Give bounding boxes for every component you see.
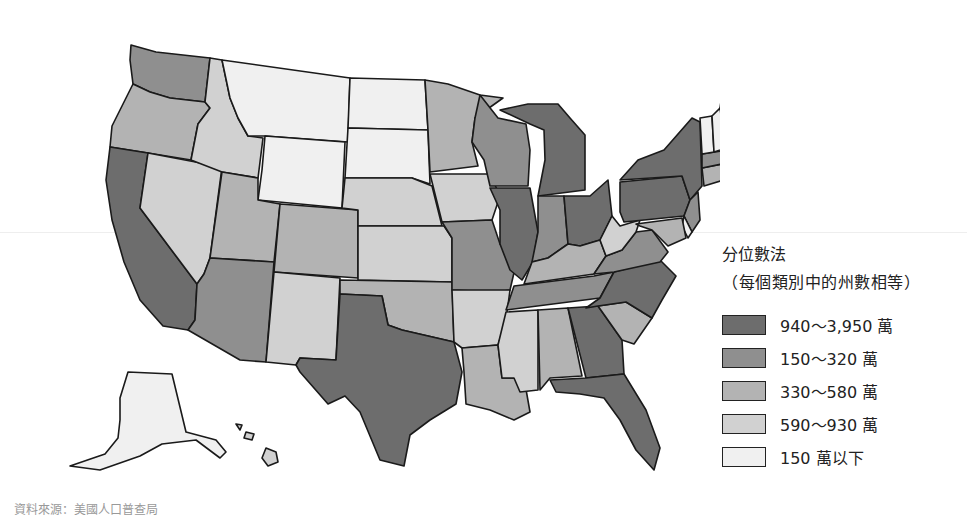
state-KS[interactable]	[358, 226, 452, 282]
state-PA[interactable]	[620, 176, 690, 222]
state-FL[interactable]	[550, 374, 660, 470]
state-WY[interactable]	[258, 136, 345, 208]
source-caption: 資料來源：美國人口普查局	[14, 500, 158, 517]
legend-item: 330～580 萬	[722, 374, 967, 407]
legend-swatch	[722, 381, 766, 401]
state-AK[interactable]	[70, 372, 226, 470]
legend-label: 150～320 萬	[780, 346, 878, 370]
legend-swatch	[722, 348, 766, 368]
us-choropleth-map	[0, 0, 720, 509]
legend-swatch	[722, 315, 766, 335]
state-HI-2[interactable]	[244, 432, 254, 440]
state-CO[interactable]	[274, 204, 358, 278]
legend-item: 150 萬以下	[722, 440, 967, 473]
legend-item: 940～3,950 萬	[722, 308, 967, 341]
state-ND[interactable]	[348, 78, 428, 130]
map-legend: 分位數法 （每個類別中的州數相等） 940～3,950 萬 150～320 萬 …	[722, 244, 967, 473]
legend-item: 590～930 萬	[722, 407, 967, 440]
state-NH[interactable]	[712, 108, 720, 152]
state-SD[interactable]	[345, 128, 430, 184]
legend-label: 940～3,950 萬	[780, 313, 893, 337]
legend-swatch	[722, 447, 766, 467]
state-NM[interactable]	[266, 272, 340, 365]
legend-label: 330～580 萬	[780, 379, 878, 403]
state-HI[interactable]	[262, 448, 278, 466]
legend-subtitle: （每個類別中的州數相等）	[722, 272, 967, 294]
legend-label: 590～930 萬	[780, 412, 878, 436]
legend-title: 分位數法	[722, 244, 967, 266]
legend-label: 150 萬以下	[780, 445, 864, 469]
legend-swatch	[722, 414, 766, 434]
legend-item: 150～320 萬	[722, 341, 967, 374]
state-HI-3[interactable]	[236, 424, 242, 430]
